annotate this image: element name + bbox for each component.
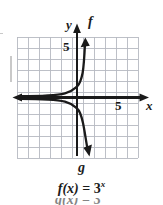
caption-base: 3 (94, 181, 101, 196)
figure-caption: f(x) = 3x (0, 180, 163, 196)
curve-f-arrowhead (81, 38, 90, 48)
graph-figure: y f x g 5 5 f(x) = 3x g(x) = 3-x (0, 0, 163, 205)
curve-g-arrowhead (83, 145, 92, 157)
curve-g (21, 99, 92, 157)
curve-g-label: g (78, 161, 85, 175)
figure-caption-cutoff-clip: g(x) = 3-x (0, 198, 163, 205)
y-axis-label: y (66, 18, 72, 31)
x-axis-label: x (146, 99, 153, 112)
x-axis-tick-label-5: 5 (115, 99, 122, 112)
y-axis-tick-label-5: 5 (63, 40, 70, 53)
curve-f (21, 38, 90, 97)
caption-equals: = (82, 181, 90, 196)
curve-f-label: f (88, 15, 93, 29)
figure-caption-cutoff: g(x) = 3-x (0, 198, 163, 205)
x-axis (13, 94, 150, 102)
caption-cutoff-exponent: -x (100, 198, 108, 200)
caption-function-name: f(x) (58, 181, 79, 196)
y-axis-arrow-up (73, 24, 81, 34)
caption-cutoff-equals: = (82, 198, 90, 205)
caption-cutoff-function-name: g(x) (55, 198, 78, 205)
caption-exponent: x (101, 179, 106, 189)
